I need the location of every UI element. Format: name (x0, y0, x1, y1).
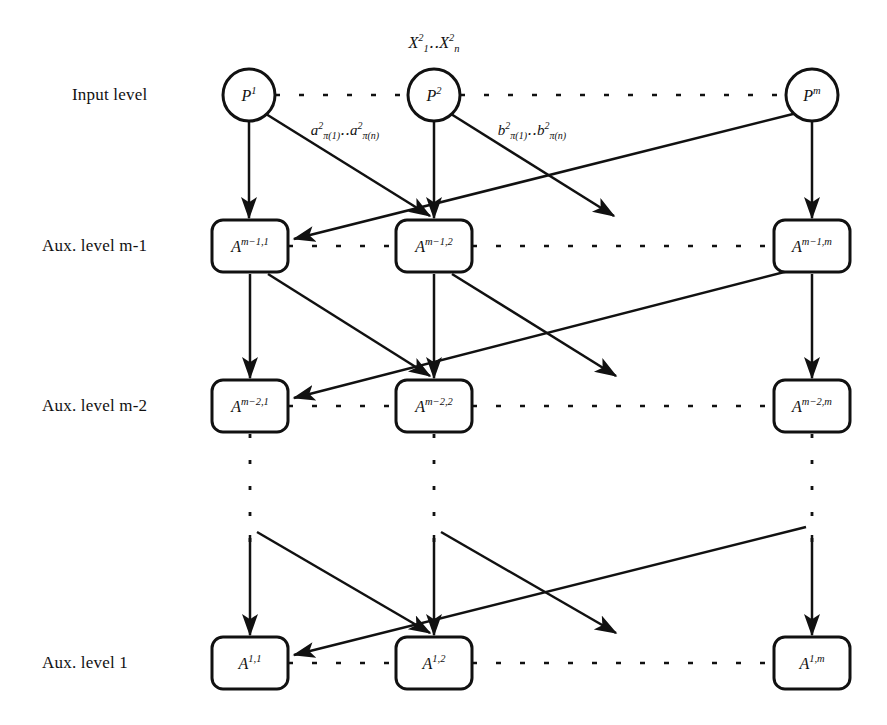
node-a-m2-2[interactable] (396, 380, 472, 432)
arrow-edges (249, 113, 812, 655)
row-label-aux-level-m-1: Aux. level m-1 (42, 236, 147, 256)
arrow-am1-m-to-am2-1-diagonal (294, 268, 800, 398)
arrow-column-1-to-a1-2-diagonal (257, 532, 430, 633)
node-a-m1-2[interactable] (396, 220, 472, 272)
node-a-m2-1[interactable] (212, 380, 288, 432)
arrow-am1-2-dangling-diagonal (452, 274, 616, 376)
vertical-dotted-connectors (250, 434, 812, 545)
aux-level-nodes (212, 220, 850, 689)
node-p-2[interactable] (408, 69, 460, 121)
arrow-pm-to-am1-1-diagonal (294, 113, 797, 239)
arrow-column-2-dangling-diagonal (441, 532, 616, 633)
row-label-input-level: Input level (72, 85, 147, 105)
row-label-aux-level-1: Aux. level 1 (42, 653, 128, 673)
node-a-m1-m[interactable] (774, 220, 850, 272)
diagram-canvas (0, 0, 887, 725)
node-a-m1-1[interactable] (212, 220, 288, 272)
node-a-1-2[interactable] (396, 637, 472, 689)
arrow-am1-1-to-am2-2-diagonal (268, 274, 430, 376)
top-annotation-x-inputs: X21‥X2n (408, 32, 459, 54)
node-a-1-1[interactable] (212, 637, 288, 689)
node-a-m2-m[interactable] (774, 380, 850, 432)
arrow-p1-to-am1-2-diagonal (266, 114, 430, 216)
row-label-aux-level-m-2: Aux. level m-2 (42, 396, 147, 416)
arrow-column-m-to-a1-1-diagonal (294, 527, 806, 655)
node-p-m[interactable] (786, 69, 838, 121)
node-p-1[interactable] (223, 69, 275, 121)
node-a-1-m[interactable] (774, 637, 850, 689)
input-level-nodes (223, 69, 838, 121)
